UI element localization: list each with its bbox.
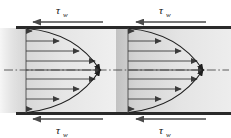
- tau-subscript: w: [166, 11, 171, 19]
- tau-subscript: w: [63, 11, 68, 19]
- tau-subscript: w: [63, 131, 68, 138]
- tau-subscript: w: [166, 131, 171, 138]
- figure-canvas: τ w τ w τ w τ w: [0, 0, 231, 138]
- velocity-profile-figure: τ w τ w τ w τ w: [0, 0, 231, 138]
- fluid-edge-shade-left: [0, 28, 24, 113]
